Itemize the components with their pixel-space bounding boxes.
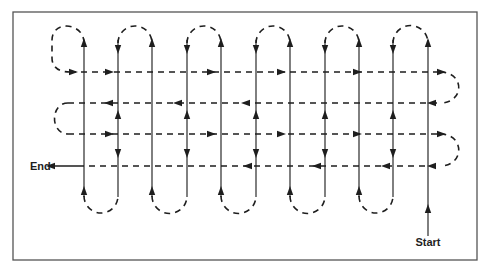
end-exit-arrow <box>46 163 78 169</box>
top-left-loop <box>52 26 84 72</box>
right-turn-loop-2 <box>440 134 459 166</box>
arrow-up-icon <box>115 110 121 119</box>
top-loop <box>325 26 359 43</box>
top-loop <box>393 26 428 44</box>
search-pattern-diagram: End Start <box>0 0 491 276</box>
start-label: Start <box>415 236 440 248</box>
arrow-up-icon <box>356 38 362 47</box>
arrow-up-icon <box>356 186 362 195</box>
arrow-right-icon <box>69 69 78 75</box>
diagram-frame <box>13 12 477 260</box>
arrow-down-icon <box>184 149 190 158</box>
arrow-right-icon <box>437 69 446 75</box>
bottom-loop <box>221 196 256 214</box>
arrow-right-icon <box>207 131 216 137</box>
arrow-left-icon <box>241 100 250 106</box>
arrow-down-icon <box>115 45 121 54</box>
arrow-left-icon <box>173 100 182 106</box>
arrow-up-icon <box>425 38 431 47</box>
arrow-up-icon <box>390 110 396 119</box>
arrow-up-icon <box>149 186 155 195</box>
arrow-down-icon <box>184 45 190 54</box>
arrow-right-icon <box>353 131 362 137</box>
end-label: End <box>30 160 51 172</box>
top-loop <box>118 26 152 43</box>
top-turn-loops <box>52 26 428 73</box>
arrow-down-icon <box>253 45 259 54</box>
arrow-down-icon <box>390 149 396 158</box>
arrow-left-icon <box>243 163 252 169</box>
arrow-right-icon <box>105 69 114 75</box>
arrow-up-icon <box>287 38 293 47</box>
arrow-down-icon <box>115 149 121 158</box>
bottom-loop <box>290 196 325 214</box>
bottom-loop <box>152 196 187 214</box>
arrow-right-icon <box>277 131 286 137</box>
arrow-up-icon <box>81 186 87 195</box>
arrow-down-icon <box>322 45 328 54</box>
arrow-left-icon <box>312 163 321 169</box>
arrow-left-icon <box>381 163 390 169</box>
right-turn-loop-1 <box>440 72 459 103</box>
arrow-up-icon <box>287 186 293 195</box>
arrow-right-icon <box>353 69 362 75</box>
bottom-loop <box>359 196 393 213</box>
arrow-right-icon <box>207 69 216 75</box>
arrow-down-icon <box>390 45 396 54</box>
arrow-up-icon <box>149 38 155 47</box>
arrow-right-icon <box>277 69 286 75</box>
arrow-down-icon <box>322 149 328 158</box>
arrow-up-icon <box>322 110 328 119</box>
arrow-up-icon <box>253 110 259 119</box>
arrow-right-icon <box>437 131 446 137</box>
arrow-down-icon <box>253 149 259 158</box>
arrow-up-icon <box>425 204 431 213</box>
vertical-passes <box>84 40 428 236</box>
arrow-up-icon <box>81 38 87 47</box>
bottom-loop <box>84 196 118 213</box>
top-loop <box>256 26 290 43</box>
top-loop <box>187 26 221 43</box>
arrow-right-icon <box>105 131 114 137</box>
start-entry-arrow <box>425 204 431 213</box>
arrow-left-icon <box>104 100 113 106</box>
arrow-up-icon <box>218 186 224 195</box>
bottom-turn-loops <box>84 196 393 214</box>
arrow-up-icon <box>218 38 224 47</box>
arrow-up-icon <box>184 110 190 119</box>
left-turn-loop <box>55 103 69 134</box>
